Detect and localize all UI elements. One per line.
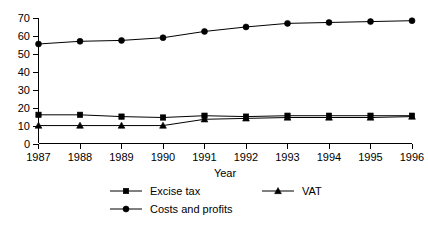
- x-tick-label: 1989: [109, 151, 133, 163]
- legend-item-costs-and-profits: Costs and profits: [110, 203, 233, 215]
- data-point: [160, 115, 165, 120]
- data-point: [36, 112, 41, 117]
- series-line: [39, 21, 413, 44]
- x-tick-label: 1990: [151, 151, 175, 163]
- data-point: [326, 19, 332, 25]
- y-tick-label: 0: [24, 138, 30, 150]
- x-tick-label: 1992: [234, 151, 258, 163]
- chart-legend: Excise taxVATCosts and profits: [110, 185, 322, 215]
- data-point: [77, 112, 82, 117]
- legend-marker-square: [123, 188, 128, 193]
- data-point: [202, 28, 208, 34]
- legend-label: Costs and profits: [150, 203, 233, 215]
- legend-marker-circle: [123, 206, 129, 212]
- data-point: [36, 41, 42, 47]
- x-tick-label: 1987: [26, 151, 50, 163]
- series-costs-and-profits: [36, 18, 416, 47]
- data-point: [409, 18, 415, 24]
- x-axis-title: Year: [214, 167, 237, 179]
- y-tick-label: 20: [18, 102, 30, 114]
- data-point: [285, 20, 291, 26]
- line-chart: 010203040506070 198719881989199019911992…: [0, 0, 428, 231]
- data-point: [77, 38, 83, 44]
- y-tick-label: 40: [18, 66, 30, 78]
- x-tick-label: 1996: [400, 151, 424, 163]
- data-point: [119, 114, 124, 119]
- y-tick-label: 30: [18, 84, 30, 96]
- legend-label: Excise tax: [150, 185, 201, 197]
- y-tick-label: 70: [18, 12, 30, 24]
- chart-canvas: 010203040506070 198719881989199019911992…: [0, 0, 428, 231]
- legend-label: VAT: [302, 185, 322, 197]
- x-tick-label: 1991: [192, 151, 216, 163]
- x-tick-label: 1988: [68, 151, 92, 163]
- y-tick-label: 60: [18, 30, 30, 42]
- legend-item-excise-tax: Excise tax: [110, 185, 201, 197]
- data-point: [368, 19, 374, 25]
- x-tick-label: 1995: [358, 151, 382, 163]
- data-point: [119, 37, 125, 43]
- x-tick-label: 1993: [275, 151, 299, 163]
- series-layer: [35, 18, 415, 129]
- y-tick-label: 10: [18, 120, 30, 132]
- x-tick-label: 1994: [317, 151, 341, 163]
- y-axis-ticks: 010203040506070: [18, 12, 39, 150]
- x-axis-ticks: 1987198819891990199119921993199419951996: [26, 144, 424, 164]
- data-point: [160, 35, 166, 41]
- legend-item-vat: VAT: [262, 185, 322, 197]
- y-tick-label: 50: [18, 48, 30, 60]
- series-line: [39, 117, 413, 126]
- data-point: [243, 24, 249, 30]
